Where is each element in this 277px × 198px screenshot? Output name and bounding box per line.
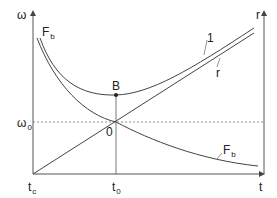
fb-top-label: Fb	[42, 26, 55, 41]
point-o-label: 0	[106, 126, 113, 138]
t0-sub: 0	[116, 187, 120, 196]
fb-bottom-sub: b	[231, 150, 235, 159]
leader-fb	[217, 153, 222, 159]
fb-top-main: F	[42, 25, 49, 39]
omega0-sub: 0	[27, 123, 31, 132]
r-line	[33, 33, 254, 174]
curve-1	[40, 28, 254, 95]
t0-label: t0	[112, 181, 121, 196]
r-axis-label: r	[256, 9, 260, 21]
t0-main: t	[112, 180, 115, 194]
line-1-label: 1	[207, 32, 214, 44]
tc-label: tc	[28, 181, 36, 196]
omega-axis-label: ω	[17, 9, 26, 21]
tc-main: t	[28, 180, 31, 194]
point-b-label: B	[112, 80, 120, 92]
tc-sub: c	[32, 187, 36, 196]
point-b	[114, 93, 118, 97]
line-r-label: r	[216, 67, 220, 79]
fb-bottom-label: Fb	[223, 144, 236, 159]
time-axis-label: t	[259, 181, 262, 193]
omega0-label: ω0	[17, 117, 32, 132]
fb-bottom-main: F	[223, 143, 230, 157]
fb-top-sub: b	[50, 32, 54, 41]
omega0-main: ω	[17, 116, 26, 130]
